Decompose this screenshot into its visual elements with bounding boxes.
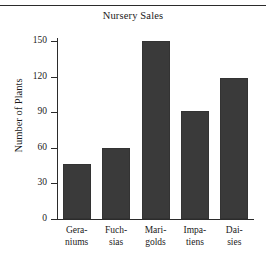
nursery-sales-figure: Nursery Sales Number of Plants 030609012…	[0, 0, 266, 274]
x-category-label-line: Impa-	[175, 225, 214, 237]
y-tick-label: 60	[38, 143, 48, 153]
page-title: Nursery Sales	[0, 10, 266, 21]
x-category-label-line: Gera-	[57, 225, 96, 237]
y-axis-label: Number of Plants	[13, 56, 24, 176]
y-tick-label: 30	[38, 178, 48, 188]
x-category-label-line: tiens	[175, 237, 214, 249]
bars-group	[57, 41, 254, 219]
x-category-label-line: Dai-	[215, 225, 254, 237]
y-tick-label: 90	[38, 107, 48, 117]
x-category-label: Gera-niums	[57, 225, 96, 248]
bar	[220, 78, 248, 219]
y-tick-label: 150	[33, 36, 47, 46]
y-tick-mark	[51, 219, 57, 220]
bar	[181, 111, 209, 219]
x-category-label-line: golds	[136, 237, 175, 249]
bar	[102, 148, 130, 219]
y-tick-label: 120	[33, 72, 47, 82]
x-category-label-line: sias	[96, 237, 135, 249]
x-category-label: Dai-sies	[215, 225, 254, 248]
x-category-label-line: niums	[57, 237, 96, 249]
x-category-label-line: Mari-	[136, 225, 175, 237]
x-category-label: Mari-golds	[136, 225, 175, 248]
x-category-label: Fuch-sias	[96, 225, 135, 248]
x-category-label-line: sies	[215, 237, 254, 249]
x-category-label: Impa-tiens	[175, 225, 214, 248]
bar	[63, 164, 91, 219]
top-rule-divider	[0, 5, 266, 6]
bar	[142, 41, 170, 219]
x-axis-line	[57, 219, 254, 220]
x-category-label-line: Fuch-	[96, 225, 135, 237]
y-tick-label: 0	[42, 214, 47, 224]
